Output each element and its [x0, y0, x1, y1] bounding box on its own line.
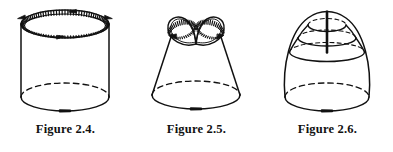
hatch-tick: [38, 13, 39, 17]
hatch-tick: [46, 11, 47, 16]
hatch-tick: [41, 12, 42, 16]
hatch-tick: [187, 35, 188, 36]
hatch-tick: [24, 29, 26, 30]
hatch-tick: [212, 21, 213, 25]
figure-2-4-illustration: [0, 0, 131, 122]
hatch-tick: [36, 33, 37, 35]
hatch-tick: [175, 23, 176, 27]
hatch-tick: [32, 32, 33, 33]
dome-base-direction-arrow-icon: [322, 111, 332, 112]
hatch-tick: [86, 12, 87, 17]
hatch-tick: [99, 15, 100, 19]
hatch-tick: [189, 20, 190, 24]
hatch-tick: [182, 37, 183, 39]
hatch-tick: [34, 32, 35, 33]
cylinder-base-direction-arrow-icon: [60, 111, 70, 112]
cone-base-direction-arrow-icon: [191, 109, 201, 110]
dome-base-rear-arc: [285, 83, 369, 97]
hatch-tick: [214, 22, 215, 26]
hatch-tick: [179, 21, 180, 25]
hatch-tick: [26, 29, 27, 30]
hatch-tick: [201, 34, 203, 35]
hatch-tick: [210, 37, 211, 39]
cone-base-front-arc: [152, 95, 240, 109]
figure-2-5-caption: Figure 2.5.: [167, 123, 226, 136]
hatch-tick: [203, 35, 204, 36]
hatch-tick: [38, 33, 39, 35]
hatch-tick: [102, 30, 103, 31]
hatch-tick: [84, 11, 85, 16]
hatch-tick: [93, 33, 94, 35]
hatch-tick: [95, 32, 96, 33]
figure-2-5-illustration: [131, 0, 262, 122]
hatch-tick: [30, 31, 31, 32]
figure-cell-2-4: Figure 2.4.: [0, 0, 131, 152]
hatch-tick: [189, 34, 191, 35]
hatch-tick: [207, 36, 208, 38]
hatch-tick: [41, 34, 42, 36]
cylinder-top-arrow-icon-right: [105, 15, 113, 19]
hatch-tick: [103, 29, 104, 30]
figure-cell-2-5: Figure 2.5.: [131, 0, 262, 152]
hatch-tick: [173, 24, 175, 28]
hatch-tick: [86, 34, 87, 36]
hatch-tick: [202, 20, 203, 24]
hatch-tick: [46, 35, 47, 37]
figure-plate: Figure 2.4.: [0, 0, 393, 152]
hatch-tick: [210, 20, 211, 24]
dome-base-front-arc: [285, 97, 369, 111]
hatch-tick: [198, 32, 200, 33]
hatch-tick: [30, 15, 31, 19]
hatch-tick: [190, 33, 192, 34]
hatch-tick: [177, 22, 178, 26]
hatch-tick: [43, 34, 44, 36]
hatch-tick: [200, 33, 202, 34]
figure-2-6-illustration: [262, 0, 393, 122]
hatch-tick: [100, 16, 101, 20]
hatch-tick: [28, 31, 29, 32]
hatch-tick: [84, 35, 85, 37]
hatch-tick: [36, 13, 37, 17]
hatch-tick: [97, 32, 98, 33]
hatch-tick: [89, 12, 90, 16]
figure-2-4-caption: Figure 2.4.: [36, 123, 95, 136]
hatch-tick: [104, 29, 106, 30]
figure-2-6-caption: Figure 2.6.: [298, 123, 357, 136]
cone-base-rear-arc: [152, 81, 240, 95]
figure-cell-2-6: Figure 2.6.: [262, 0, 393, 152]
cylinder-top-hatch-group: [21, 10, 109, 38]
cylinder-base-rear-arc: [21, 83, 109, 97]
cylinder-base-front-arc: [21, 97, 109, 111]
hatch-tick: [43, 12, 44, 17]
cone-right-wall: [220, 34, 240, 95]
hatch-tick: [89, 34, 90, 36]
hatch-tick: [217, 24, 219, 28]
hatch-tick: [100, 31, 101, 32]
hatch-tick: [27, 30, 28, 31]
hatch-tick: [91, 33, 92, 35]
hatch-tick: [200, 21, 201, 25]
hatch-tick: [205, 36, 206, 38]
hatch-tick: [215, 23, 216, 27]
hatch-tick: [99, 31, 100, 32]
hatch-tick: [93, 13, 94, 17]
cylinder-top-arrow-icon-left: [18, 15, 26, 19]
hatch-tick: [28, 16, 29, 20]
hatch-tick: [182, 20, 183, 24]
hatch-tick: [91, 13, 92, 17]
hatch-tick: [191, 21, 192, 25]
hatch-tick: [192, 32, 194, 33]
hatch-tick: [186, 36, 187, 38]
hatch-tick: [184, 36, 185, 38]
